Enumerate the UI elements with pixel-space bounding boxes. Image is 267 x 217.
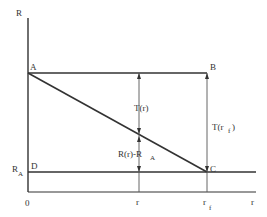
T-rf-close: ) bbox=[232, 122, 235, 132]
T-rf-subscript: f bbox=[228, 127, 231, 135]
T-r-annotation: T(r) bbox=[134, 103, 149, 113]
r-tick-label: r bbox=[136, 197, 139, 207]
y-axis-label: R bbox=[16, 8, 22, 18]
arrow-T-rf-top bbox=[205, 73, 209, 79]
point-D-label: D bbox=[31, 161, 38, 171]
T-rf-annotation: T(r bbox=[212, 122, 224, 132]
x-axis-label: r bbox=[251, 197, 254, 207]
point-B-label: B bbox=[210, 62, 216, 72]
arrow-R-bottom bbox=[137, 166, 141, 172]
origin-label: 0 bbox=[25, 198, 30, 208]
diagram-canvas: R r 0 A B C D R A r r f T(r) T(r f ) R(r… bbox=[0, 0, 267, 217]
rf-tick-subscript: f bbox=[209, 204, 212, 212]
point-C-label: C bbox=[210, 164, 216, 174]
point-A-label: A bbox=[30, 62, 37, 72]
RA-subscript: A bbox=[18, 170, 23, 178]
arrow-R-top bbox=[137, 136, 141, 142]
rf-tick-label: r bbox=[203, 197, 206, 207]
R-minus-RA-annotation: R(r)-R bbox=[118, 149, 142, 159]
R-minus-RA-subscript: A bbox=[150, 154, 155, 162]
arrow-T-r-top bbox=[137, 73, 141, 79]
